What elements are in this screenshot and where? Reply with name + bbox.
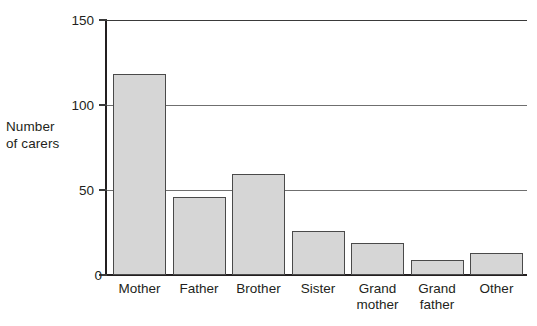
y-axis-title-line-2: of carers <box>6 135 84 152</box>
y-tick-mark-50 <box>99 189 107 191</box>
y-tick-mark-150 <box>99 19 107 21</box>
x-category-label-line: father <box>392 297 482 313</box>
y-axis-title-line-1: Number <box>6 118 84 135</box>
x-category-label-other: Other <box>452 281 537 297</box>
bar-sister <box>292 231 345 275</box>
y-tick-label-150: 150 <box>58 14 94 28</box>
bar-father <box>173 197 226 276</box>
y-tick-mark-100 <box>99 104 107 106</box>
bar-other <box>470 253 523 275</box>
y-tick-label-100: 100 <box>58 99 94 113</box>
y-axis-title: Number of carers <box>6 118 84 152</box>
bar-grand-father <box>411 260 464 275</box>
bar-brother <box>232 174 285 275</box>
y-tick-label-50: 50 <box>58 184 94 198</box>
bar-grand-mother <box>351 243 404 275</box>
bar-chart: Number of carers 150 100 50 0 MotherFath… <box>0 0 537 326</box>
plot-area <box>107 19 527 275</box>
bar-mother <box>113 74 166 275</box>
x-category-label-line: Other <box>452 281 537 297</box>
